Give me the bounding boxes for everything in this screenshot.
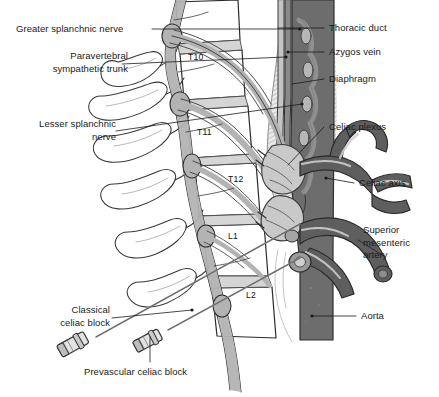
vertebra-label-l2: L2 (246, 290, 256, 300)
leader-classical-block (112, 310, 192, 318)
vertebra-label-t10: T10 (188, 52, 203, 62)
vertebra-label-l1: L1 (228, 231, 238, 241)
label-celiac-plexus: Celiac plexus (329, 121, 386, 134)
label-celiac-axis: Celiac axis (359, 177, 405, 190)
vertebra-label-t11: T11 (197, 127, 212, 137)
label-aorta: Aorta (361, 310, 384, 323)
label-thoracic-duct: Thoracic duct (329, 22, 387, 35)
label-prevascular-celiac-block: Prevascular celiac block (84, 366, 187, 379)
label-lesser-splanchnic-nerve: Lesser splanchnic nerve (10, 118, 116, 143)
label-classical-celiac-block: Classical celiac block (34, 304, 110, 329)
anatomical-figure: Greater splanchnic nerve Paravertebral s… (0, 0, 439, 397)
label-azygos-vein: Azygos vein (329, 46, 381, 59)
label-paravertebral-sympathetic-trunk: Paravertebral sympathetic trunk (10, 50, 128, 75)
vertebra-label-t12: T12 (228, 174, 243, 184)
label-diaphragm: Diaphragm (329, 73, 376, 86)
label-greater-splanchnic-nerve: Greater splanchnic nerve (16, 23, 123, 36)
label-superior-mesenteric-artery: Superior mesenteric artery (363, 224, 410, 262)
